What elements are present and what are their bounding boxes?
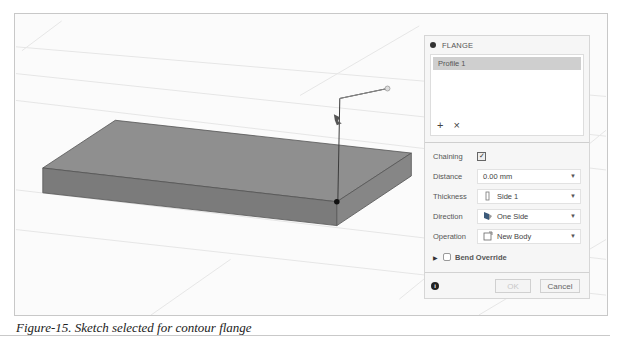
- ok-button[interactable]: OK: [495, 279, 531, 293]
- one-side-direction-icon: [483, 211, 493, 221]
- figure-caption: Figure-15. Sketch selected for contour f…: [16, 320, 252, 336]
- chaining-checkbox[interactable]: ✓: [477, 152, 486, 161]
- thickness-side-icon: [483, 191, 493, 201]
- distance-label: Distance: [433, 172, 477, 181]
- chaining-label: Chaining: [433, 152, 477, 161]
- distance-input[interactable]: 0.00 mm ▼: [477, 169, 581, 184]
- list-item-profile[interactable]: Profile 1: [433, 57, 581, 70]
- profile-list[interactable]: Profile 1 + ×: [430, 54, 584, 136]
- bend-override-checkbox[interactable]: [443, 253, 451, 261]
- thickness-label: Thickness: [433, 192, 477, 201]
- info-icon[interactable]: i: [431, 282, 439, 290]
- thickness-row: Thickness Side 1 ▼: [425, 186, 589, 206]
- remove-icon[interactable]: ×: [453, 119, 459, 131]
- direction-value: One Side: [497, 212, 528, 221]
- dialog-footer: i OK Cancel: [425, 272, 589, 298]
- cancel-button[interactable]: Cancel: [540, 279, 580, 293]
- direction-select[interactable]: One Side ▼: [477, 209, 581, 224]
- flange-icon: [430, 42, 436, 48]
- chevron-down-icon[interactable]: ▼: [570, 213, 576, 219]
- operation-value: New Body: [497, 232, 531, 241]
- add-icon[interactable]: +: [437, 119, 443, 131]
- chevron-down-icon[interactable]: ▼: [570, 173, 576, 179]
- thickness-value: Side 1: [497, 192, 518, 201]
- sheet-metal-plate[interactable]: [43, 120, 412, 225]
- chevron-down-icon[interactable]: ▼: [570, 193, 576, 199]
- flange-dialog: FLANGE Profile 1 + × Chaining ✓ Distance…: [424, 35, 590, 299]
- dialog-header[interactable]: FLANGE: [425, 36, 589, 54]
- operation-select[interactable]: New Body ▼: [477, 229, 581, 244]
- distance-value: 0.00 mm: [483, 172, 512, 181]
- operation-row: Operation New Body ▼: [425, 226, 589, 246]
- expand-arrow-icon[interactable]: ▶: [433, 254, 438, 261]
- divider: [425, 142, 589, 143]
- distance-row: Distance 0.00 mm ▼: [425, 166, 589, 186]
- operation-label: Operation: [433, 232, 477, 241]
- chaining-row: Chaining ✓: [425, 146, 589, 166]
- direction-label: Direction: [433, 212, 477, 221]
- bend-override-label: Bend Override: [455, 253, 507, 262]
- constraint-glyph-icon: [334, 114, 342, 125]
- sketch-startpoint[interactable]: [334, 199, 340, 205]
- direction-row: Direction One Side ▼: [425, 206, 589, 226]
- chevron-down-icon[interactable]: ▼: [570, 233, 576, 239]
- bend-override-group[interactable]: ▶ Bend Override: [425, 248, 589, 266]
- thickness-select[interactable]: Side 1 ▼: [477, 189, 581, 204]
- new-body-icon: [483, 231, 493, 241]
- profile-label: Profile 1: [438, 59, 466, 68]
- sketch-endpoint[interactable]: [385, 86, 390, 91]
- dialog-title: FLANGE: [442, 41, 473, 50]
